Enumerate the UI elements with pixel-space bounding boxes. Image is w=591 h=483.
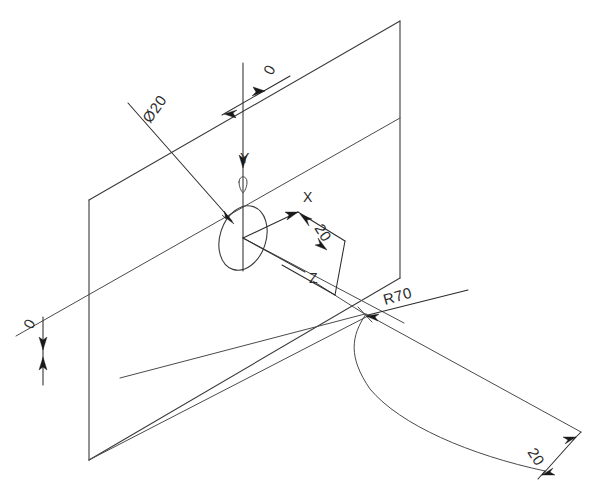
x-offset-text: 20 <box>311 221 335 245</box>
top-offset-text: 0 <box>260 62 279 78</box>
vertical-reference-plane <box>89 21 400 460</box>
left-offset-dimension: 0 <box>20 316 47 385</box>
y-axis: Y <box>239 63 250 271</box>
bottom-width-dimension: 20 <box>524 432 581 479</box>
x-offset-dimension: 20 <box>282 212 345 295</box>
radius-callout-text: R70 <box>381 284 414 308</box>
cad-drawing-svg: Y X Z Ø20 0 <box>0 0 591 483</box>
y-axis-label: Y <box>240 150 250 166</box>
technical-drawing-canvas: Y X Z Ø20 0 <box>0 0 591 483</box>
swept-surface-band <box>313 281 581 471</box>
x-axis: X <box>243 189 313 238</box>
ground-construction-lines <box>16 118 404 460</box>
bottom-width-text: 20 <box>524 445 548 469</box>
diameter-callout-leader <box>128 103 234 224</box>
x-axis-label: X <box>303 189 313 205</box>
z-axis-label: Z <box>309 270 318 286</box>
left-offset-text: 0 <box>20 316 39 332</box>
